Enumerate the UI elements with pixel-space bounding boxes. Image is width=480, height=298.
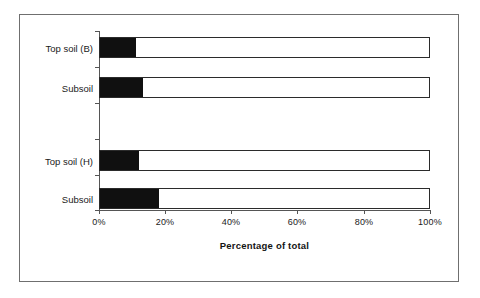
bar-subsoil-h xyxy=(99,188,430,209)
bar-top-soil-b xyxy=(99,37,430,58)
value-axis-line xyxy=(99,210,431,211)
value-axis-label-0: 0% xyxy=(92,217,105,227)
value-axis-tick xyxy=(231,210,232,214)
category-axis-line xyxy=(99,31,100,211)
value-axis-label-100: 100% xyxy=(418,217,442,227)
value-axis-tick xyxy=(99,210,100,214)
bar-segment-dark xyxy=(100,38,136,57)
value-axis-label-80: 80% xyxy=(355,217,374,227)
bar-segment-dark xyxy=(100,78,143,97)
value-axis-tick xyxy=(430,210,431,214)
bar-segment-light xyxy=(143,78,429,97)
category-label-top-soil-h: Top soil (H) xyxy=(45,156,93,167)
bar-segment-dark xyxy=(100,189,159,208)
value-axis-label-20: 20% xyxy=(156,217,175,227)
category-label-subsoil-b: Subsoil xyxy=(62,83,93,94)
bar-subsoil-b xyxy=(99,77,430,98)
value-axis-label-60: 60% xyxy=(288,217,307,227)
bar-segment-light xyxy=(139,151,429,170)
value-axis-label-40: 40% xyxy=(222,217,241,227)
category-label-top-soil-b: Top soil (B) xyxy=(45,43,93,54)
bar-top-soil-h xyxy=(99,150,430,171)
value-axis-tick xyxy=(165,210,166,214)
bar-segment-light xyxy=(136,38,429,57)
category-labels: Top soil (B) Subsoil Top soil (H) Subsoi… xyxy=(0,0,99,298)
category-label-subsoil-h: Subsoil xyxy=(62,194,93,205)
value-axis-tick xyxy=(297,210,298,214)
x-axis-title: Percentage of total xyxy=(99,240,430,251)
value-axis-tick xyxy=(364,210,365,214)
bar-segment-dark xyxy=(100,151,139,170)
bar-segment-light xyxy=(159,189,429,208)
chart-figure: Top soil (B) Subsoil Top soil (H) Subsoi… xyxy=(0,0,480,298)
